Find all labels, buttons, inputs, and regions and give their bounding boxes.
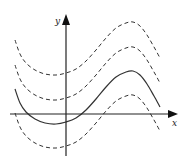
y-axis-arrow-icon [62, 14, 70, 25]
curve-family [15, 22, 160, 148]
y-axis-label: y [54, 16, 61, 26]
curve-shift-minus-1 [15, 95, 160, 148]
curve-shift-plus-2 [15, 22, 160, 75]
x-axis-arrow-icon [168, 110, 178, 118]
x-axis-label: x [172, 118, 177, 128]
diagram-canvas: x y [0, 0, 186, 166]
